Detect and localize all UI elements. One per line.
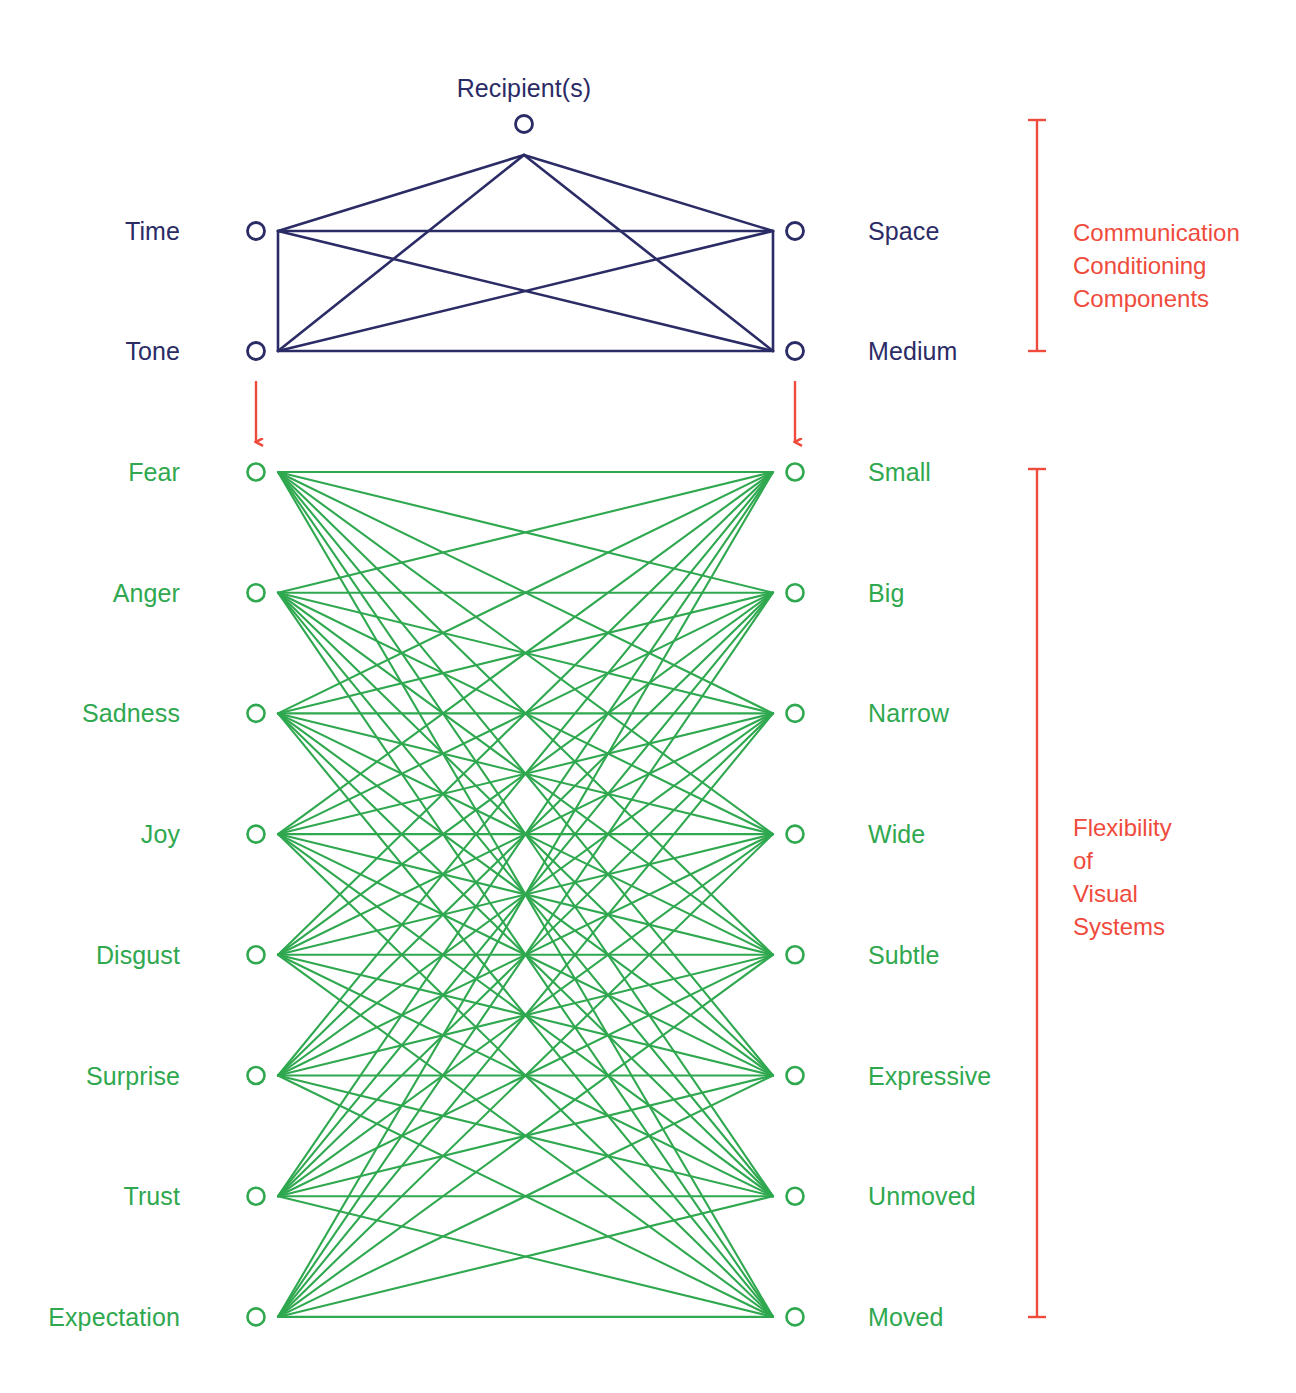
node-big[interactable]: [787, 584, 804, 601]
transition-arrows: [256, 381, 795, 442]
label-wide: Wide: [868, 822, 925, 847]
node-unmoved[interactable]: [787, 1188, 804, 1205]
node-tone[interactable]: [248, 343, 265, 360]
node-joy[interactable]: [248, 826, 265, 843]
node-medium[interactable]: [787, 343, 804, 360]
label-medium: Medium: [868, 339, 958, 364]
annotation-flexibility-of-visual-systems: Flexibility of Visual Systems: [1073, 811, 1172, 943]
node-subtle[interactable]: [787, 946, 804, 963]
label-subtle: Subtle: [868, 943, 940, 968]
label-unmoved: Unmoved: [868, 1184, 976, 1209]
node-space[interactable]: [787, 223, 804, 240]
network-diagram-svg: [0, 0, 1296, 1393]
bracket-communication: [1028, 120, 1046, 351]
label-anger: Anger: [113, 581, 180, 606]
label-expressive: Expressive: [868, 1064, 991, 1089]
annotation-communication-conditioning-components: Communication Conditioning Components: [1073, 216, 1240, 315]
annotation-brackets: [1028, 120, 1046, 1317]
label-disgust: Disgust: [96, 943, 180, 968]
label-time: Time: [125, 219, 180, 244]
label-sadness: Sadness: [82, 701, 180, 726]
label-moved: Moved: [868, 1305, 944, 1330]
node-expectation[interactable]: [248, 1308, 265, 1325]
label-trust: Trust: [123, 1184, 180, 1209]
label-tone: Tone: [125, 339, 180, 364]
label-small: Small: [868, 460, 931, 485]
label-expectation: Expectation: [48, 1305, 180, 1330]
page-title: Recipient(s): [457, 76, 592, 101]
node-time[interactable]: [248, 223, 265, 240]
label-surprise: Surprise: [86, 1064, 180, 1089]
diagram-canvas: Recipient(s) Time Tone Space Medium Fear…: [0, 0, 1296, 1393]
node-sadness[interactable]: [248, 705, 265, 722]
label-joy: Joy: [141, 822, 180, 847]
node-moved[interactable]: [787, 1308, 804, 1325]
node-recipient[interactable]: [516, 116, 533, 133]
node-surprise[interactable]: [248, 1067, 265, 1084]
label-big: Big: [868, 581, 904, 606]
label-narrow: Narrow: [868, 701, 949, 726]
label-fear: Fear: [128, 460, 180, 485]
label-space: Space: [868, 219, 939, 244]
node-anger[interactable]: [248, 584, 265, 601]
node-fear[interactable]: [248, 464, 265, 481]
node-wide[interactable]: [787, 826, 804, 843]
node-narrow[interactable]: [787, 705, 804, 722]
node-trust[interactable]: [248, 1188, 265, 1205]
bottom-network-edges: [278, 472, 773, 1317]
top-network-nodes: [248, 116, 804, 360]
node-disgust[interactable]: [248, 946, 265, 963]
node-expressive[interactable]: [787, 1067, 804, 1084]
bracket-flexibility: [1028, 469, 1046, 1317]
node-small[interactable]: [787, 464, 804, 481]
top-network-edges: [278, 155, 773, 351]
